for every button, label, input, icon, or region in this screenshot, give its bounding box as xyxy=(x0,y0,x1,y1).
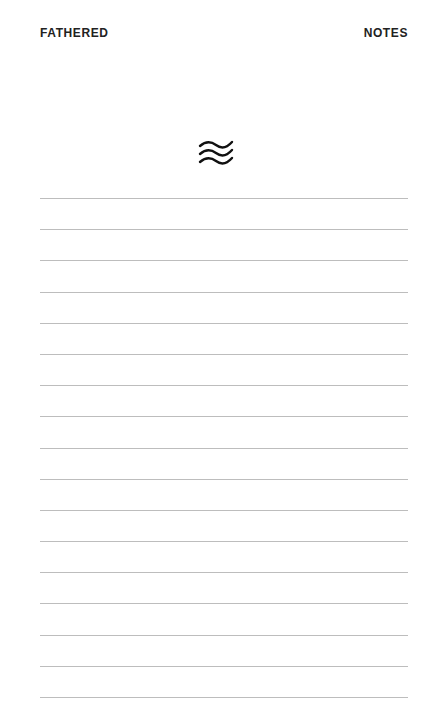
note-line[interactable] xyxy=(40,260,408,291)
note-line[interactable] xyxy=(40,697,408,724)
note-line[interactable] xyxy=(40,479,408,510)
note-line[interactable] xyxy=(40,510,408,541)
note-line[interactable] xyxy=(40,385,408,416)
note-line[interactable] xyxy=(40,229,408,260)
note-line[interactable] xyxy=(40,666,408,697)
note-line[interactable] xyxy=(40,198,408,229)
note-line[interactable] xyxy=(40,603,408,634)
note-line[interactable] xyxy=(40,448,408,479)
page-title: NOTES xyxy=(364,26,408,40)
note-line[interactable] xyxy=(40,354,408,385)
note-line[interactable] xyxy=(40,292,408,323)
ruled-lines[interactable] xyxy=(40,198,408,724)
brand-label: FATHERED xyxy=(40,26,109,40)
note-line[interactable] xyxy=(40,323,408,354)
note-line[interactable] xyxy=(40,541,408,572)
note-line[interactable] xyxy=(40,416,408,447)
waves-icon xyxy=(198,137,234,169)
note-line[interactable] xyxy=(40,635,408,666)
note-line[interactable] xyxy=(40,572,408,603)
